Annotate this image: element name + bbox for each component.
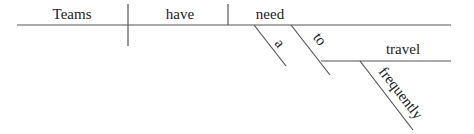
infinitive-marker-word: to	[310, 29, 330, 48]
verb-word: have	[166, 6, 195, 22]
infinitive-verb-word: travel	[386, 41, 420, 57]
article-modifier-word: a	[272, 35, 289, 50]
sentence-diagram: Teams have need a to travel frequently	[0, 0, 474, 134]
subject-word: Teams	[53, 6, 92, 22]
object-word: need	[256, 6, 285, 22]
